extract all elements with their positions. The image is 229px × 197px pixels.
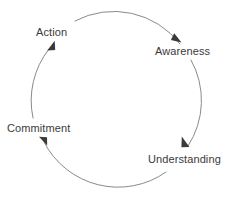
edge-awareness-to-understanding-arrowhead — [181, 137, 189, 148]
edge-commitment-to-action-arrowhead — [47, 41, 55, 51]
node-label-awareness: Awareness — [155, 45, 210, 57]
edge-understanding-to-commitment-arrowhead — [39, 137, 47, 146]
cycle-diagram: Action Awareness Understanding Commitmen… — [0, 0, 229, 197]
edge-awareness-to-understanding-arc — [188, 60, 202, 146]
node-label-action: Action — [36, 26, 67, 38]
node-label-understanding: Understanding — [148, 153, 221, 165]
node-label-commitment: Commitment — [7, 122, 70, 134]
edge-commitment-to-action-arc — [31, 49, 49, 118]
edge-action-to-awareness-arc — [75, 11, 180, 44]
edge-action-to-awareness-arrowhead — [171, 33, 182, 42]
cycle-arcs-svg — [0, 0, 229, 197]
